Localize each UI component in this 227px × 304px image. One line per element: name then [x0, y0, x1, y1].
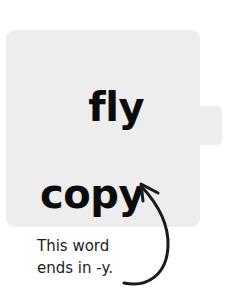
card-word-fly: fly [26, 87, 144, 127]
flashcard-scene: fly copy This word ends in -y. [0, 0, 227, 304]
curved-arrow-icon [110, 170, 190, 295]
card-tab [198, 106, 222, 145]
